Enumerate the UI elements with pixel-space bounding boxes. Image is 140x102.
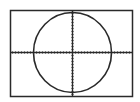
calculator-graph	[0, 0, 140, 102]
axes	[11, 11, 132, 96]
